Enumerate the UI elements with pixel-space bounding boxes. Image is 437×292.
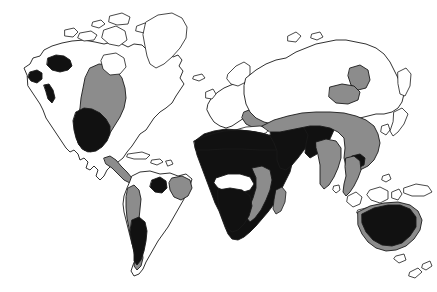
world-map-figure — [0, 0, 437, 292]
shade-siberia-south-patch — [329, 84, 360, 104]
world-map-canvas — [0, 0, 437, 292]
